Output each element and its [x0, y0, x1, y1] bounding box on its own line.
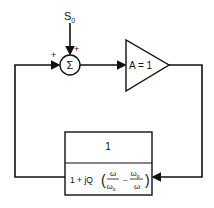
input-plus-sign: +: [74, 44, 79, 54]
frac2-denominator: ω: [134, 182, 140, 191]
minus-sign: –: [123, 175, 128, 184]
left-paren: (: [101, 172, 106, 188]
right-paren: ): [145, 172, 150, 188]
input-label: S0: [64, 10, 75, 24]
amplifier-label: A = 1: [129, 60, 153, 71]
feedback-path: [15, 65, 65, 177]
frac1-numerator: ω: [110, 169, 116, 178]
denominator-prefix: 1 + jQ: [70, 175, 93, 185]
filter-numerator: 1: [105, 141, 111, 152]
feedback-block-diagram: S0 + Σ + A = 1 1 1 + jQ ( ω ωo – ωo ω ): [0, 0, 214, 208]
sigma-symbol: Σ: [67, 59, 74, 71]
feedback-plus-sign: +: [51, 50, 56, 60]
output-path: [153, 65, 202, 177]
